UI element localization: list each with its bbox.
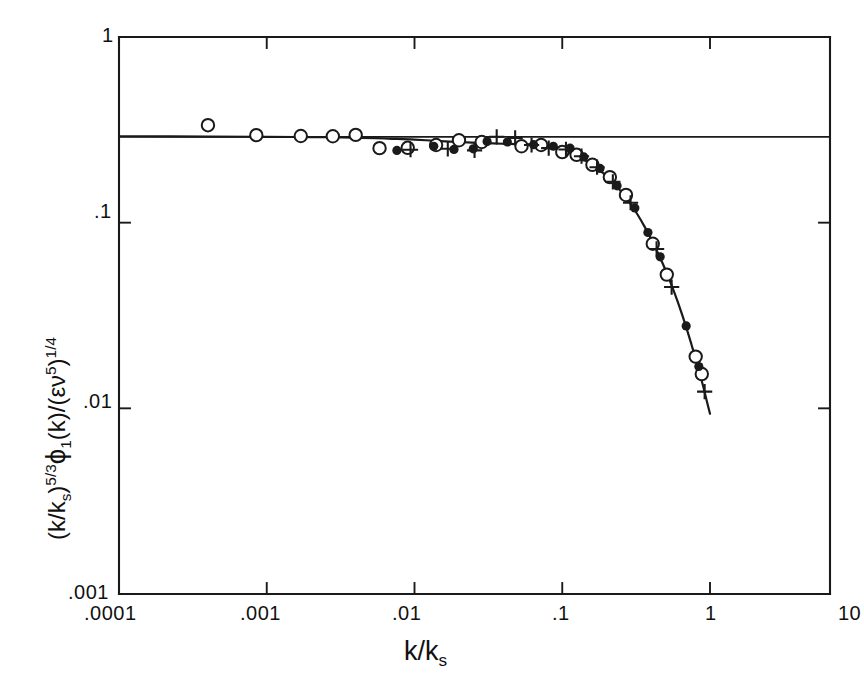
y-title-sub1: s (57, 494, 74, 502)
data-point-open-circle (373, 142, 385, 154)
y-axis-title: (k/ks)5/3ϕ1(k)/(εν5)1/4 (40, 337, 75, 540)
data-point-filled-circle (682, 321, 691, 330)
x-axis-title: k/ks (404, 636, 447, 671)
data-point-plus (697, 384, 712, 399)
y-title-p4: ) (43, 358, 70, 366)
ytick-label-2: .01 (83, 390, 112, 413)
data-point-filled-circle (469, 144, 478, 153)
xtick-label-3: .1 (552, 602, 570, 625)
x-axis-title-text: k/k (404, 636, 439, 666)
y-title-sup3: 1/4 (42, 337, 59, 358)
y-title-p2: ) (43, 486, 70, 494)
data-point-open-circle (350, 129, 362, 141)
y-title-p3: (k)/(εν (43, 375, 70, 440)
figure-canvas: .0001 .001 .01 .1 1 10 1 .1 .01 .001 k/k… (0, 0, 864, 695)
data-point-open-circle (515, 140, 527, 152)
data-point-open-circle (689, 350, 701, 362)
ytick-label-0: 1 (102, 24, 114, 47)
y-title-sup2: 5 (42, 366, 59, 375)
fit-curve (119, 136, 710, 413)
ytick-label-3: .001 (68, 581, 109, 604)
data-point-filled-circle (630, 203, 639, 212)
data-point-open-circle (661, 268, 673, 280)
data-point-open-circle (295, 130, 307, 142)
y-title-p1: (k/k (43, 501, 70, 540)
xtick-label-5: 10 (838, 602, 861, 625)
chart-plot-area (0, 0, 864, 695)
series-open-circle (202, 119, 708, 380)
y-title-sub2: 1 (57, 440, 74, 449)
data-point-filled-circle (549, 142, 558, 151)
xtick-label-4: 1 (705, 602, 717, 625)
data-point-open-circle (453, 134, 465, 146)
data-point-open-circle (402, 142, 414, 154)
y-title-phi: ϕ (40, 449, 71, 464)
x-axis-title-subscript: s (439, 650, 448, 670)
xtick-label-1: .001 (240, 602, 281, 625)
y-title-sup1: 5/3 (42, 464, 59, 485)
data-point-filled-circle (482, 137, 491, 146)
xtick-label-0: .0001 (84, 602, 137, 625)
data-point-filled-circle (429, 142, 438, 151)
series-plus (403, 129, 712, 399)
ytick-label-1: .1 (94, 200, 112, 223)
xtick-label-2: .01 (392, 602, 421, 625)
axis-frame (119, 37, 830, 594)
data-point-open-circle (250, 129, 262, 141)
data-point-filled-circle (643, 228, 652, 237)
data-point-filled-circle (392, 146, 401, 155)
data-point-open-circle (327, 130, 339, 142)
data-point-open-circle (202, 119, 214, 131)
data-point-filled-circle (694, 362, 703, 371)
